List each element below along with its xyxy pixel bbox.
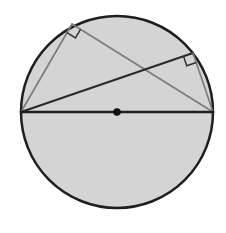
diagram-canvas (0, 0, 226, 233)
center-point (113, 108, 121, 116)
thales-diagram (0, 0, 226, 233)
